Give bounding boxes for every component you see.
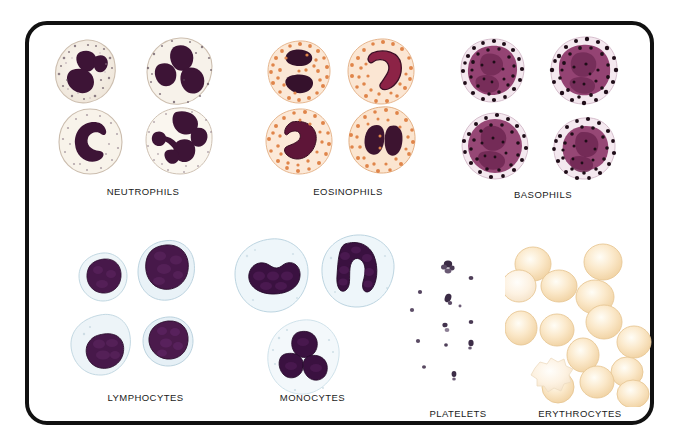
monocyte-cell [231,236,313,316]
lymphocyte-cell [76,250,130,304]
basophil-cell [548,114,620,184]
basophil-cell [546,34,622,108]
neutrophil-cell [140,104,218,180]
platelet [444,343,448,346]
platelet [422,365,426,369]
monocyte-cell [261,316,347,400]
eosinophil-cell [344,104,420,178]
platelet [468,340,473,350]
basophil-cell [458,110,532,182]
basophil-cell [456,36,528,106]
lymphocyte-cell [140,314,196,370]
platelet [416,339,420,343]
platelet [443,293,452,305]
panel-platelets: PLATELETS [398,246,518,421]
neutrophil-cell [142,34,218,110]
erythrocyte [541,270,577,302]
blood-cell-chart: NEUTROPHILS [0,0,678,443]
erythrocyte-cluster [505,242,655,407]
monocyte-cell [317,232,399,312]
platelet [418,290,422,294]
lymphocyte-cell [134,238,200,306]
platelet [452,371,457,380]
panel-label-platelets: PLATELETS [398,408,518,419]
erythrocyte [540,314,574,346]
erythrocyte [505,311,537,345]
platelet [469,276,474,280]
panel-label-lymphocytes: LYMPHOCYTES [58,392,233,403]
platelet-scatter [398,246,518,406]
neutrophil-cell [54,106,126,178]
erythrocyte [617,380,649,407]
panel-label-monocytes: MONOCYTES [225,392,400,403]
lymphocyte-cell [66,310,138,380]
platelet [441,260,455,273]
erythrocyte [505,270,536,302]
eosinophil-cell [344,36,418,108]
panel-erythrocytes: ERYTHROCYTES [505,242,655,422]
platelet [459,305,462,308]
panel-label-erythrocytes: ERYTHROCYTES [505,408,655,419]
platelet [410,308,414,312]
erythrocyte [580,366,614,398]
panel-label-eosinophils: EOSINOPHILS [258,186,438,197]
panel-basophils: BASOPHILS [448,34,638,199]
panel-neutrophils: NEUTROPHILS [48,34,238,194]
eosinophil-cell [264,38,334,106]
erythrocyte [584,244,622,280]
panel-label-neutrophils: NEUTROPHILS [48,186,238,197]
platelet [442,323,449,332]
panel-monocytes: MONOCYTES [225,232,400,402]
erythrocyte [586,305,622,339]
eosinophil-cell [262,106,336,178]
platelet [469,320,474,324]
neutrophil-cell [50,36,122,108]
panel-label-basophils: BASOPHILS [448,189,638,200]
erythrocyte [617,326,651,358]
panel-eosinophils: EOSINOPHILS [258,34,438,194]
panel-lymphocytes: LYMPHOCYTES [58,238,233,403]
